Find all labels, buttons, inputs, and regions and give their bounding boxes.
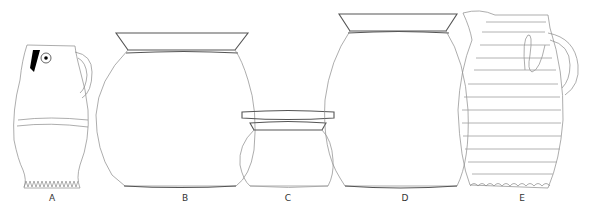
- spout-mark: [30, 50, 40, 72]
- vessel-a-drawing: [14, 45, 92, 188]
- vessel-label-b: B: [175, 193, 195, 203]
- vessel-b-drawing: [96, 33, 255, 188]
- vessel-label-c: C: [278, 193, 298, 203]
- vessel-label-a: A: [42, 193, 62, 203]
- vessel-d-drawing: [325, 14, 469, 188]
- vessel-label-e: E: [512, 193, 532, 203]
- pottery-drawing-canvas: [0, 0, 598, 219]
- vessel-e-drawing: [458, 11, 578, 188]
- rib-lines: [462, 22, 561, 174]
- vessel-label-d: D: [395, 193, 415, 203]
